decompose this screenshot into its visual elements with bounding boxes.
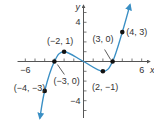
point-label: (2, −1)	[92, 82, 118, 92]
y-tick-label: −4	[70, 96, 80, 106]
x-axis: −66 x	[18, 59, 154, 75]
point-label: (−2, 1)	[47, 36, 73, 46]
point-label: (−3, 0)	[53, 76, 79, 86]
data-point	[52, 59, 57, 64]
leader-line	[57, 65, 64, 75]
data-point	[110, 59, 115, 64]
x-tick-label: −6	[20, 65, 30, 75]
point-label: (3, 0)	[93, 34, 114, 44]
data-point	[120, 30, 125, 35]
data-point	[62, 49, 67, 54]
y-axis: 4−4 y	[70, 2, 86, 118]
function-graph: −66 x 4−4 y (−4, −3)(−3, 0)(−2, 1)(2, −1…	[0, 0, 154, 128]
point-label: (4, 3)	[126, 27, 147, 37]
data-point	[101, 69, 106, 74]
y-axis-label: y	[75, 2, 81, 12]
x-tick-labels: −66	[20, 65, 144, 75]
point-label: (−4, −3)	[14, 83, 46, 93]
leader-line	[105, 50, 111, 60]
x-axis-label: x	[149, 65, 154, 75]
x-tick-label: 6	[139, 65, 144, 75]
y-tick-label: 4	[75, 17, 80, 27]
